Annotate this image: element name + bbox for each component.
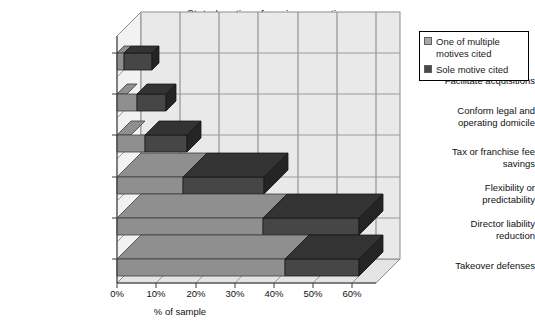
y-label-line2: operating domicile bbox=[423, 117, 535, 129]
y-label-takeover-defenses: Takeover defenses bbox=[423, 260, 535, 272]
bar-tax-franchise bbox=[117, 121, 201, 152]
legend-swatch-light-gray bbox=[424, 37, 432, 45]
y-label-conform-legal: Conform legal and operating domicile bbox=[423, 105, 535, 128]
x-axis-title: % of sample bbox=[60, 306, 300, 317]
y-label-line1: Tax or franchise fee bbox=[423, 146, 535, 158]
y-tick-marks bbox=[112, 53, 117, 259]
y-label-line1: Director liability bbox=[423, 218, 535, 230]
legend-label-line1: One of multiple bbox=[436, 36, 500, 47]
y-label-line2: savings bbox=[423, 158, 535, 170]
legend-swatch-dark-gray bbox=[424, 65, 432, 73]
y-label-line1: Conform legal and bbox=[423, 105, 535, 117]
x-tick-30: 30% bbox=[218, 288, 252, 299]
y-label-tax-franchise: Tax or franchise fee savings bbox=[423, 146, 535, 169]
legend-label-line2: motives cited bbox=[436, 48, 491, 59]
x-tick-0: 0% bbox=[100, 288, 134, 299]
y-label-line2: predictability bbox=[423, 194, 535, 206]
y-label-line2: reduction bbox=[423, 230, 535, 242]
legend-label-one-of-multiple: One of multiple motives cited bbox=[436, 36, 524, 59]
legend-label-sole-motive: Sole motive cited bbox=[436, 64, 508, 76]
legend: One of multiple motives cited Sole motiv… bbox=[419, 31, 529, 81]
bar-conform-legal bbox=[117, 84, 176, 111]
x-tick-40: 40% bbox=[257, 288, 291, 299]
bar-facilitate-acquisitions bbox=[117, 46, 159, 70]
y-label-director-liability: Director liability reduction bbox=[423, 218, 535, 241]
x-tick-20: 20% bbox=[179, 288, 213, 299]
legend-item-sole-motive: Sole motive cited bbox=[424, 64, 524, 76]
legend-item-one-of-multiple: One of multiple motives cited bbox=[424, 36, 524, 59]
x-tick-60: 60% bbox=[335, 288, 369, 299]
y-label-line1: Takeover defenses bbox=[423, 260, 535, 272]
bar-flexibility bbox=[117, 153, 288, 194]
y-label-line1: Flexibility or bbox=[423, 182, 535, 194]
chart-root: Stated motives for reincorporation bbox=[0, 0, 535, 332]
y-label-flexibility: Flexibility or predictability bbox=[423, 182, 535, 205]
bar-director-liability bbox=[117, 194, 383, 235]
x-tick-50: 50% bbox=[296, 288, 330, 299]
bar-takeover-defenses bbox=[117, 235, 383, 276]
x-tick-10: 10% bbox=[139, 288, 173, 299]
